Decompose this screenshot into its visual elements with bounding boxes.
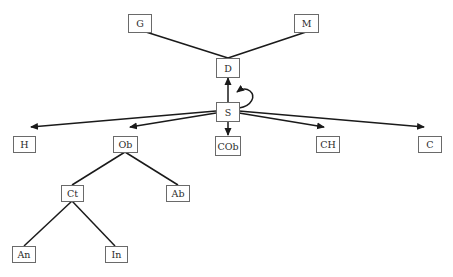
node-ab-label: Ab [171,188,185,199]
node-m: M [295,15,319,33]
node-h-label: H [20,139,28,150]
node-in: In [106,247,128,263]
node-h: H [14,137,36,153]
node-ch-label: CH [320,139,336,150]
edge-ct-an [24,201,72,246]
node-g-label: G [136,18,144,29]
node-m-label: M [302,18,312,29]
node-an: An [13,247,36,263]
node-g: G [129,15,152,33]
node-s-label: S [225,107,232,118]
node-s: S [217,103,240,122]
edge-ob-ab [125,152,178,185]
node-c: C [419,137,442,153]
edge-g-d [146,32,228,58]
node-ab: Ab [167,186,190,202]
node-cob-label: COb [217,141,238,152]
edge-m-d [228,32,306,58]
node-d-label: D [224,63,232,74]
nodes-layer: G M D S H Ob COb CH [13,15,442,263]
node-ch: CH [317,137,340,153]
node-ob: Ob [114,137,138,153]
node-an-label: An [17,249,31,260]
edge-ct-in [72,201,115,246]
edge-ob-ct [72,152,125,185]
node-cob: COb [216,137,241,156]
node-c-label: C [426,139,433,150]
arrow-s-h [31,111,216,127]
tree-diagram: G M D S H Ob COb CH [0,0,453,277]
node-ct: Ct [62,186,84,202]
arrow-s-c [239,111,424,127]
node-ob-label: Ob [119,139,133,150]
node-ct-label: Ct [67,188,78,199]
node-d: D [217,59,240,78]
node-in-label: In [112,249,122,260]
